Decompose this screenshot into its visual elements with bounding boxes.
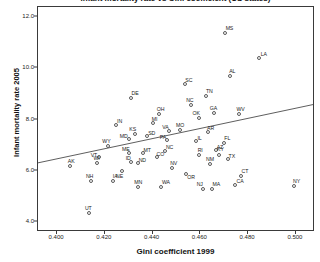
data-point-label: CA — [236, 178, 243, 184]
x-tick-mark — [152, 231, 153, 234]
x-tick-mark — [295, 231, 296, 234]
data-point-label: MI — [152, 116, 158, 122]
x-tick-mark — [104, 231, 105, 234]
data-point — [133, 132, 137, 136]
data-point-label: MO — [176, 122, 184, 128]
data-point-label: OH — [157, 106, 165, 112]
data-point-label: NC — [166, 144, 173, 150]
data-point-label: NH — [86, 173, 93, 179]
data-point — [178, 128, 182, 132]
data-point-label: ID — [126, 155, 131, 161]
chart-container: Infant mortality rate vs Gini coefficien… — [0, 0, 320, 262]
data-point-label: CT — [242, 168, 249, 174]
data-point — [89, 179, 93, 183]
data-point-label: FL — [224, 135, 230, 141]
data-point-label: KS — [129, 126, 136, 132]
x-tick-label: 0.440 — [136, 234, 168, 240]
x-tick-label: 0.400 — [40, 234, 72, 240]
data-point-label: IA — [113, 173, 118, 179]
data-point — [212, 111, 216, 115]
data-point-label: VA — [162, 124, 168, 130]
data-point-label: WY — [102, 138, 110, 144]
data-point-label: PA — [160, 134, 166, 140]
data-point-label: WV — [237, 106, 245, 112]
data-point-label: NM — [206, 156, 214, 162]
data-point-label: OK — [193, 110, 200, 116]
x-tick-mark — [56, 231, 57, 234]
data-point-label: WI — [93, 155, 99, 161]
data-point-label: GA — [210, 105, 217, 111]
data-point-label: DE — [132, 90, 139, 96]
data-point-label: NJ — [197, 181, 203, 187]
data-point-label: IL — [198, 135, 202, 141]
data-point-label: LA — [261, 51, 267, 57]
data-point-label: NC — [186, 97, 193, 103]
data-point-label: WA — [162, 179, 170, 185]
data-point-label: TN — [206, 88, 213, 94]
data-point-label: SC — [185, 77, 192, 83]
data-point-label: OR — [187, 174, 195, 180]
x-tick-label: 0.420 — [88, 234, 120, 240]
x-tick-mark — [247, 231, 248, 234]
data-point-label: MA — [213, 181, 221, 187]
data-point-label: NY — [293, 178, 300, 184]
data-point-label: UT — [85, 205, 92, 211]
data-point-label: SD — [148, 130, 155, 136]
data-point — [292, 184, 296, 188]
data-point — [201, 187, 205, 191]
x-tick-mark — [199, 231, 200, 234]
data-point-label: MS — [226, 25, 234, 31]
x-tick-label: 0.460 — [183, 234, 215, 240]
data-point-label: MD — [120, 133, 128, 139]
data-point — [210, 187, 214, 191]
trendline — [38, 7, 313, 230]
data-point — [68, 164, 72, 168]
data-point-label: IN — [117, 118, 122, 124]
data-point-label: MT — [143, 147, 150, 153]
x-tick-label: 0.500 — [279, 234, 311, 240]
data-point — [95, 161, 99, 165]
data-point-label: AK — [68, 158, 75, 164]
plot-area: MSLAALSCDETNNCOHGAWVOKMIINMOVAARKSSDMDPA… — [37, 6, 314, 231]
data-point-label: NV — [170, 160, 177, 166]
data-point-label: AL — [229, 68, 235, 74]
data-point-label: AR — [207, 125, 214, 131]
data-point-label: MN — [134, 179, 142, 185]
data-point-label: KY — [217, 146, 224, 152]
data-point-label: RI — [198, 147, 203, 153]
data-point-label: ND — [139, 157, 146, 163]
data-point — [129, 96, 133, 100]
data-point-label: ME — [122, 146, 130, 152]
data-point — [170, 166, 174, 170]
x-tick-label: 0.480 — [231, 234, 263, 240]
data-point-label: TX — [229, 153, 235, 159]
